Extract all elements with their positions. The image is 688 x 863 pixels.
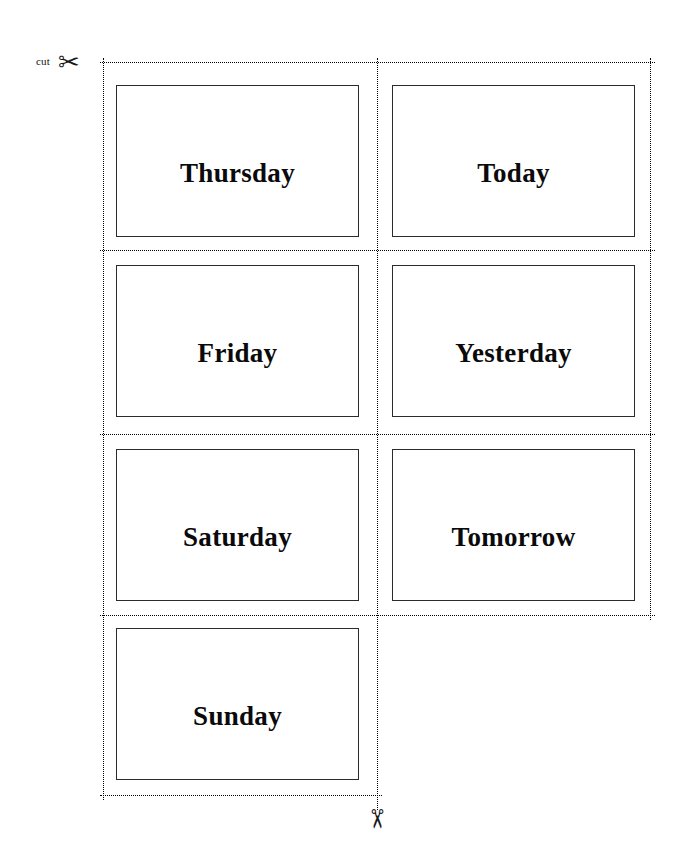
card-label: Today — [477, 158, 550, 189]
cut-label: cut — [36, 55, 50, 67]
card-label: Friday — [198, 338, 278, 369]
card-label: Tomorrow — [452, 522, 576, 553]
card-row1-col2[interactable]: Today — [392, 85, 635, 237]
card-label: Yesterday — [455, 338, 572, 369]
card-row2-col2[interactable]: Yesterday — [392, 265, 635, 417]
cut-line-vertical-middle — [377, 58, 378, 810]
card-row1-col1[interactable]: Thursday — [116, 85, 359, 237]
cut-line-vertical-right — [650, 58, 651, 620]
printable-cut-sheet: cut ✂ ✂ Thursday Today Friday Yesterday … — [0, 0, 688, 863]
card-row3-col2[interactable]: Tomorrow — [392, 449, 635, 601]
card-label: Sunday — [193, 701, 282, 732]
card-row3-col1[interactable]: Saturday — [116, 449, 359, 601]
card-label: Thursday — [180, 158, 295, 189]
cut-line-horizontal-bottom — [100, 795, 382, 796]
scissors-right-icon: ✂ — [58, 50, 80, 76]
card-row4-col1[interactable]: Sunday — [116, 628, 359, 780]
card-label: Saturday — [183, 522, 292, 553]
scissors-down-icon: ✂ — [363, 808, 389, 830]
cut-line-vertical-left — [103, 58, 104, 800]
card-row2-col1[interactable]: Friday — [116, 265, 359, 417]
